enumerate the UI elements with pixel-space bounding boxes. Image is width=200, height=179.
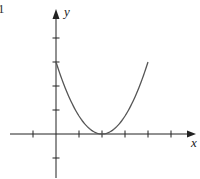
y-axis-arrow-icon	[53, 9, 60, 19]
parabola-plot: y x	[0, 0, 200, 179]
y-axis-label: y	[62, 4, 70, 19]
axes	[10, 9, 196, 178]
x-axis-label: x	[190, 135, 197, 150]
parabola-curve	[56, 62, 148, 134]
